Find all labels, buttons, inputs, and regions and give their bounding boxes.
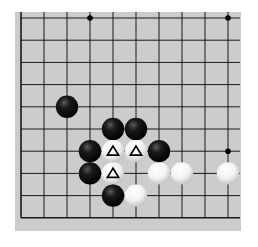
black-stone[interactable] bbox=[79, 140, 101, 162]
black-stone[interactable] bbox=[102, 118, 124, 140]
black-stone-disc bbox=[102, 184, 124, 206]
white-stone-disc bbox=[148, 162, 170, 184]
white-stone-disc bbox=[102, 140, 124, 162]
white-stone-triangle-marked[interactable] bbox=[102, 162, 124, 184]
black-stone-disc bbox=[79, 162, 101, 184]
black-stone[interactable] bbox=[56, 96, 78, 118]
black-stone-disc bbox=[148, 140, 170, 162]
white-stone-disc bbox=[217, 162, 239, 184]
star-point bbox=[87, 15, 93, 21]
white-stone[interactable] bbox=[217, 162, 239, 184]
black-stone[interactable] bbox=[102, 184, 124, 206]
black-stone-disc bbox=[79, 140, 101, 162]
black-stone[interactable] bbox=[148, 140, 170, 162]
white-stone-disc bbox=[102, 162, 124, 184]
white-stone-disc bbox=[125, 140, 147, 162]
star-point bbox=[225, 148, 231, 154]
star-point bbox=[225, 15, 231, 21]
black-stone[interactable] bbox=[125, 118, 147, 140]
black-stone-disc bbox=[102, 118, 124, 140]
go-board-grid[interactable] bbox=[0, 0, 258, 247]
white-stone-disc bbox=[125, 184, 147, 206]
white-stone[interactable] bbox=[125, 184, 147, 206]
black-stone-disc bbox=[56, 96, 78, 118]
white-stone-triangle-marked[interactable] bbox=[125, 140, 147, 162]
white-stone[interactable] bbox=[171, 162, 193, 184]
black-stone-disc bbox=[125, 118, 147, 140]
white-stone[interactable] bbox=[148, 162, 170, 184]
white-stone-disc bbox=[171, 162, 193, 184]
white-stone-triangle-marked[interactable] bbox=[102, 140, 124, 162]
black-stone[interactable] bbox=[79, 162, 101, 184]
